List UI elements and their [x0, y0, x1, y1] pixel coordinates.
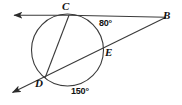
arc-measure-label-150: 150° [71, 87, 89, 96]
point-label-B: B [163, 10, 170, 21]
circle-outline [32, 14, 104, 86]
geometry-canvas [0, 0, 182, 105]
point-label-E: E [105, 47, 112, 58]
geometry-figure: C B E D 80° 150° [0, 0, 182, 105]
line-CB-right [69, 15, 166, 17]
chord-CD [45, 15, 69, 78]
arc-measure-label-80: 80° [99, 19, 112, 28]
point-label-C: C [62, 1, 69, 12]
point-label-D: D [35, 78, 43, 89]
